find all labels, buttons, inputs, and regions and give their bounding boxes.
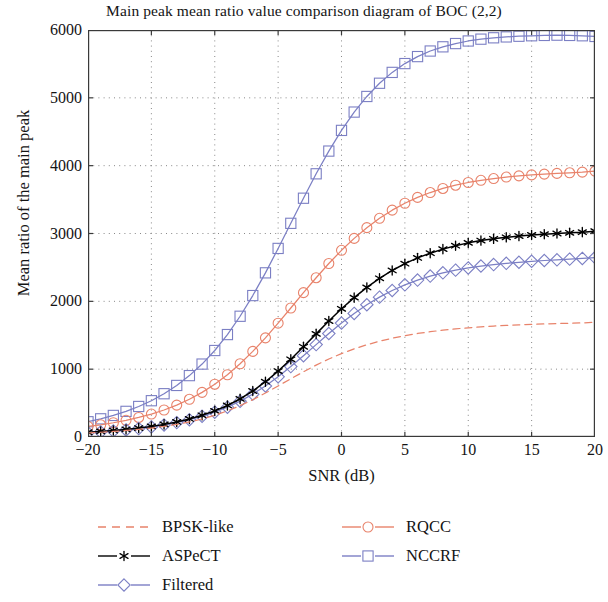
chart-figure: Main peak mean ratio value comparison di… bbox=[0, 0, 608, 602]
x-tick-label: −10 bbox=[202, 441, 227, 459]
legend-sample-star-icon bbox=[96, 546, 152, 566]
legend-entry-nccrf[interactable]: NCCRF bbox=[340, 541, 460, 570]
legend-swatch bbox=[96, 517, 152, 537]
y-tick-label: 5000 bbox=[50, 89, 82, 107]
data-point-marker-star bbox=[414, 253, 422, 262]
legend-label: ASPeCT bbox=[162, 546, 221, 566]
legend-sample-none-icon bbox=[96, 517, 152, 537]
legend-column-right: RQCCNCCRF bbox=[340, 512, 460, 570]
plot-area bbox=[88, 30, 595, 437]
y-tick-label: 6000 bbox=[50, 21, 82, 39]
data-point-marker-star bbox=[401, 259, 409, 268]
x-tick-label: −5 bbox=[270, 441, 287, 459]
data-point-marker-circle bbox=[363, 522, 373, 532]
data-point-marker-star bbox=[376, 274, 384, 283]
legend-sample-diamond-icon bbox=[96, 575, 152, 595]
legend-swatch bbox=[96, 546, 152, 566]
data-point-marker-star bbox=[388, 266, 396, 275]
x-tick-label: −15 bbox=[139, 441, 164, 459]
series-filtered bbox=[88, 251, 595, 437]
legend-sample-square-icon bbox=[340, 546, 396, 566]
legend-swatch bbox=[340, 517, 396, 537]
y-tick-label: 3000 bbox=[50, 225, 82, 243]
x-tick-label: 5 bbox=[401, 441, 409, 459]
legend-entry-filtered[interactable]: Filtered bbox=[96, 570, 234, 599]
legend-column-left: BPSK-likeASPeCTFiltered bbox=[96, 512, 234, 599]
x-tick-label: 15 bbox=[524, 441, 540, 459]
legend-entry-aspect[interactable]: ASPeCT bbox=[96, 541, 234, 570]
legend-swatch bbox=[96, 575, 152, 595]
x-tick-label: −20 bbox=[75, 441, 100, 459]
data-point-marker-diamond bbox=[118, 578, 130, 590]
series-rqcc bbox=[88, 166, 595, 431]
series-bpsk-like bbox=[88, 322, 595, 433]
data-point-marker-star bbox=[363, 283, 371, 292]
legend-entry-bpsk-like[interactable]: BPSK-like bbox=[96, 512, 234, 541]
x-tick-label: 20 bbox=[587, 441, 603, 459]
legend-entry-rqcc[interactable]: RQCC bbox=[340, 512, 460, 541]
series-line bbox=[88, 322, 595, 433]
chart-title: Main peak mean ratio value comparison di… bbox=[0, 2, 608, 20]
legend-sample-circle-icon bbox=[340, 517, 396, 537]
y-tick-label: 2000 bbox=[50, 292, 82, 310]
legend-label: Filtered bbox=[162, 575, 213, 595]
x-tick-label: 0 bbox=[338, 441, 346, 459]
data-point-marker-square bbox=[363, 550, 373, 560]
legend-label: RQCC bbox=[406, 517, 451, 537]
y-tick-label: 1000 bbox=[50, 360, 82, 378]
legend-label: NCCRF bbox=[406, 546, 460, 566]
chart-legend: BPSK-likeASPeCTFiltered RQCCNCCRF bbox=[96, 512, 566, 598]
x-axis-label: SNR (dB) bbox=[88, 466, 595, 486]
y-axis-tick-labels: 0100020003000400050006000 bbox=[0, 30, 82, 437]
data-point-marker-star bbox=[120, 551, 128, 560]
series-line bbox=[88, 258, 595, 433]
y-tick-label: 4000 bbox=[50, 157, 82, 175]
data-point-marker-star bbox=[426, 249, 434, 258]
legend-swatch bbox=[340, 546, 396, 566]
x-tick-label: 10 bbox=[460, 441, 476, 459]
x-axis-tick-labels: −20−15−10−505101520 bbox=[88, 441, 595, 465]
plot-svg bbox=[88, 30, 595, 437]
legend-label: BPSK-like bbox=[162, 517, 234, 537]
